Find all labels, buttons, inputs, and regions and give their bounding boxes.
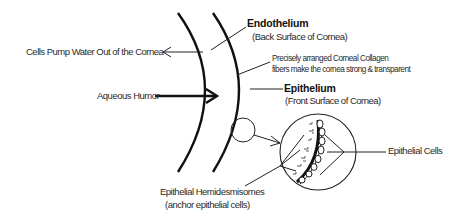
hemidesmosome-leader-3 — [280, 166, 296, 171]
collagen-leader — [237, 62, 270, 75]
hemidesmosome-leader-1 — [280, 135, 304, 166]
epithelium-sublabel: (Front Surface of Cornea) — [285, 95, 381, 106]
detail-source-circle — [231, 118, 255, 142]
collagen-label-line1: Precisely arranged Corneal Collagen — [272, 54, 388, 63]
endothelium-leader — [211, 27, 246, 50]
epithelium-arc — [213, 13, 239, 172]
endothelium-arc — [178, 13, 205, 172]
endothelium-sublabel: (Back Surface of Cornea) — [252, 31, 347, 42]
epithelium-label: Epithelium — [284, 82, 336, 94]
cells-pump-label: Cells Pump Water Out of the Cornea — [26, 46, 163, 57]
hemidesmosomes-label: Epithelial Hemidesmisomes — [160, 186, 264, 197]
hemidesmosomes-sublabel: (anchor epithelial cells) — [165, 199, 250, 210]
epithelial-cells-label: Epithelial Cells — [388, 145, 442, 156]
collagen-label-line2: fibers make the cornea strong & transpar… — [272, 65, 410, 74]
endothelium-label: Endothelium — [247, 17, 308, 29]
aqueous-humor-label: Aqueous Humor — [97, 90, 159, 101]
magnify-arrow-line — [254, 135, 280, 143]
hemidesmosome-leader-main — [245, 166, 280, 186]
